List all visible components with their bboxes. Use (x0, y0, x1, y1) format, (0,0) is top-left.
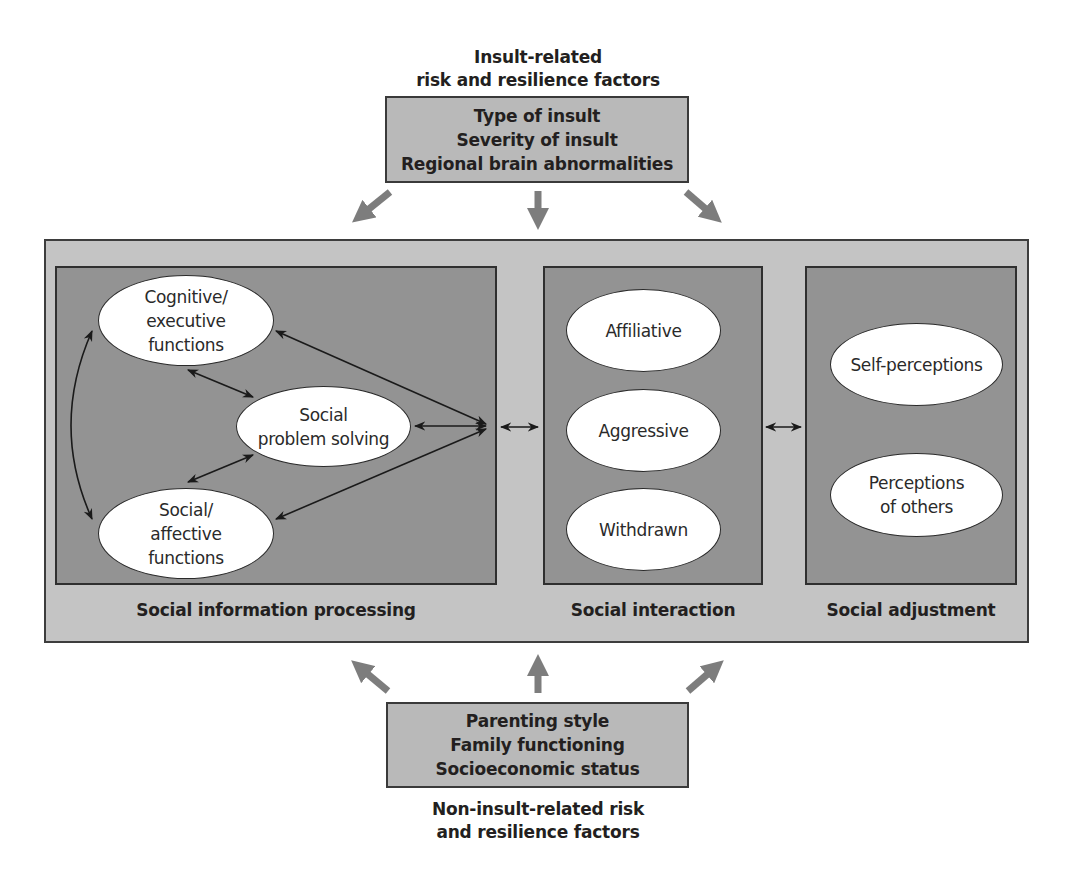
node-text: Aggressive (598, 419, 688, 443)
node-social-affective-functions: Social/ affective functions (98, 488, 274, 579)
factor-severity-of-insult: Severity of insult (456, 128, 617, 152)
bottom-caption-line2: and resilience factors (330, 821, 746, 844)
panel-label-adjustment: Social adjustment (805, 600, 1017, 620)
thick-arrow-down-right-icon (686, 192, 715, 217)
node-text: Cognitive/ (144, 285, 227, 309)
top-caption-line2: risk and resilience factors (330, 69, 746, 92)
node-text: functions (148, 333, 224, 357)
thick-arrow-up-right-icon (688, 666, 717, 691)
non-insult-related-factors-box: Parenting style Family functioning Socio… (386, 702, 689, 788)
thick-arrow-up-left-icon (358, 666, 388, 691)
panel-label-interaction: Social interaction (543, 600, 763, 620)
node-cognitive-executive-functions: Cognitive/ executive functions (98, 275, 274, 366)
node-text: Affiliative (605, 319, 681, 343)
thick-arrow-down-left-icon (359, 192, 390, 217)
top-factors-caption: Insult-related risk and resilience facto… (330, 46, 746, 92)
node-aggressive: Aggressive (566, 389, 721, 472)
factor-regional-brain-abnormalities: Regional brain abnormalities (401, 152, 673, 176)
node-perceptions-of-others: Perceptions of others (830, 453, 1003, 537)
node-text: problem solving (258, 427, 390, 451)
node-affiliative: Affiliative (566, 289, 721, 372)
node-text: Social (299, 403, 348, 427)
factor-parenting-style: Parenting style (466, 709, 609, 733)
insult-related-factors-box: Type of insult Severity of insult Region… (385, 96, 689, 183)
factor-socioeconomic-status: Socioeconomic status (435, 757, 639, 781)
bottom-caption-line1: Non-insult-related risk (330, 798, 746, 821)
node-social-problem-solving: Social problem solving (236, 386, 411, 467)
node-self-perceptions: Self-perceptions (830, 323, 1003, 406)
node-text: of others (880, 495, 953, 519)
panel-label-processing: Social information processing (55, 600, 497, 620)
bottom-factors-caption: Non-insult-related risk and resilience f… (330, 798, 746, 844)
factor-type-of-insult: Type of insult (474, 104, 601, 128)
node-text: executive (146, 309, 226, 333)
node-text: Social/ (159, 498, 213, 522)
node-text: Perceptions (869, 471, 964, 495)
node-withdrawn: Withdrawn (566, 488, 721, 571)
node-text: Self-perceptions (850, 353, 982, 377)
node-text: functions (148, 546, 224, 570)
node-text: affective (150, 522, 221, 546)
node-text: Withdrawn (599, 518, 688, 542)
factor-family-functioning: Family functioning (450, 733, 624, 757)
top-caption-line1: Insult-related (330, 46, 746, 69)
social-adjustment-panel (805, 266, 1017, 585)
